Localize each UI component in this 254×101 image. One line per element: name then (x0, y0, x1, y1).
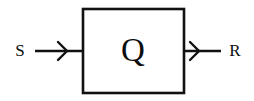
block-label: Q (121, 32, 145, 68)
output-port-label: R (229, 41, 241, 60)
input-port-label: S (15, 41, 24, 60)
block-diagram: Q S R (0, 0, 254, 101)
diagram-canvas: Q S R (0, 0, 254, 101)
